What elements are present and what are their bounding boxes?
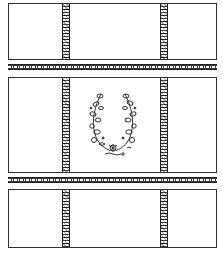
right-vertical-strip — [160, 78, 168, 172]
bottom-panel — [8, 189, 217, 248]
middle-panel — [8, 77, 217, 173]
decorative-band-2 — [8, 177, 217, 183]
decorative-band-1 — [8, 64, 217, 70]
right-vertical-strip — [160, 4, 168, 59]
top-panel — [8, 3, 217, 60]
left-vertical-strip — [62, 78, 70, 172]
floral-wreath-icon — [87, 88, 139, 160]
left-vertical-strip — [62, 4, 70, 59]
left-vertical-strip — [62, 190, 70, 247]
right-vertical-strip — [160, 190, 168, 247]
